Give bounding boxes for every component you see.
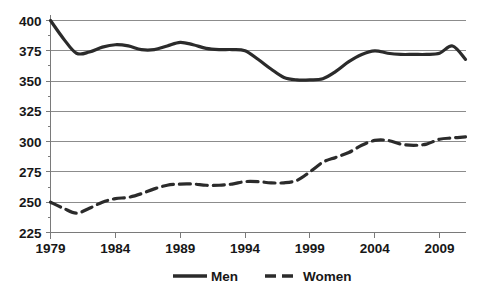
chart-canvas: 225250275300325350375400 197919841989199… [0,0,479,294]
y-axis-tick-label: 350 [19,74,42,89]
legend-label-women: Women [303,269,352,284]
x-axis-tick-label: 1994 [230,241,261,256]
y-axis-tick-label: 375 [19,44,42,59]
y-axis-tick-label: 250 [19,195,42,210]
y-axis-tick-label: 325 [19,104,42,119]
y-axis-tick-label: 225 [19,226,42,241]
y-axis-tick-label: 300 [19,135,42,150]
line-chart: 225250275300325350375400 197919841989199… [0,0,479,294]
x-axis-tick-label: 1989 [165,241,195,256]
x-axis-tick-label: 1999 [295,241,325,256]
x-axis-tick-label: 2004 [360,241,391,256]
x-axis-tick-label: 1984 [100,241,131,256]
x-axis-tick-label: 2009 [425,241,455,256]
y-axis-tick-label: 275 [19,165,42,180]
y-axis-tick-label: 400 [19,14,42,29]
x-axis-tick-label: 1979 [35,241,65,256]
legend-label-men: Men [211,269,238,284]
